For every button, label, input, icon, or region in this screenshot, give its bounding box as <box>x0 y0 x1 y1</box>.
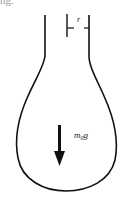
flask-diagram: r m0g <box>0 0 132 204</box>
weight-arrow-icon <box>54 125 65 166</box>
weight-label: m0g <box>74 130 89 141</box>
radius-label: r <box>77 15 81 24</box>
flask-outline <box>16 15 116 191</box>
